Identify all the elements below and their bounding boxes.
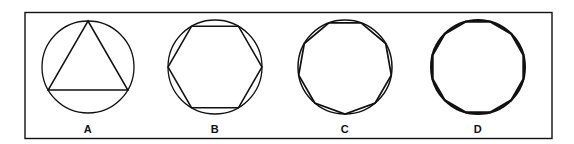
- panel-c: C: [298, 20, 392, 135]
- circumscribed-circle: [42, 21, 134, 113]
- inscribed-triangle: [48, 21, 128, 90]
- figure-border: [25, 13, 552, 139]
- panel-label-d: D: [474, 123, 482, 135]
- inscribed-nonagon: [299, 23, 392, 114]
- figure-container: ABCD: [0, 0, 574, 144]
- panel-d: D: [431, 20, 525, 135]
- panel-label-c: C: [341, 123, 349, 135]
- inscribed-polygons-diagram: ABCD: [0, 0, 574, 144]
- panel-label-a: A: [84, 123, 92, 135]
- panel-b: B: [168, 20, 262, 135]
- figure-border-group: [25, 13, 552, 139]
- circumscribed-circle: [168, 20, 262, 114]
- panel-a: A: [42, 21, 134, 135]
- figure-panels-group: ABCD: [42, 20, 525, 135]
- inscribed-dodecagon: [433, 22, 524, 113]
- panel-label-b: B: [211, 123, 219, 135]
- inscribed-hexagon: [168, 26, 262, 107]
